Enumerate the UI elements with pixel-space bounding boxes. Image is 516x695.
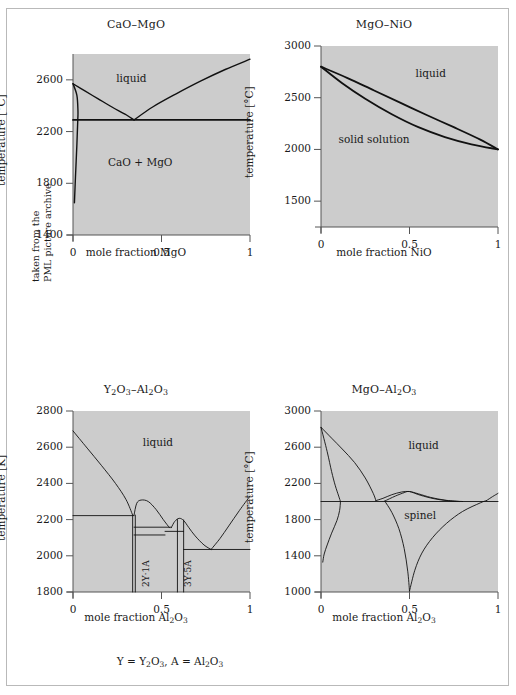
region-label: liquid (416, 67, 446, 79)
y-tick-label: 2600 (17, 73, 63, 85)
panel-mgo-nio: MgO–NiO temperature [°C] mole fraction N… (262, 18, 506, 280)
x-axis-label-mgo-al2o3: mole fraction Al2O3 (262, 611, 506, 625)
archive-note: taken from the PML picture archive (30, 183, 54, 282)
region-label: liquid (116, 72, 146, 84)
figure-root: CaO–MgO temperature [°C] mole fraction M… (0, 0, 516, 695)
y-tick-label: 2200 (17, 125, 63, 137)
region-label: solid solution (339, 133, 410, 145)
panel-y2o3-al2o3: Y2O3–Al2O3 temperature [K] mole fraction… (14, 383, 258, 645)
archive-note-line1: taken from the (30, 183, 42, 282)
y-axis-label-mgo-al2o3: temperature [°C] (243, 451, 255, 543)
x-tick-label: 0 (53, 246, 93, 258)
y-tick-label: 3000 (265, 39, 311, 51)
x-tick-label: 1 (478, 603, 516, 615)
region-label: liquid (143, 436, 173, 448)
y-tick-label: 2000 (17, 549, 63, 561)
y-tick-label: 1000 (265, 585, 311, 597)
x-tick-label: 0.5 (142, 246, 182, 258)
figure-caption: Y = Y2O3, A = Al2O3 (0, 655, 340, 669)
y-tick-label: 1800 (265, 513, 311, 525)
archive-note-line2: PML picture archive (42, 183, 54, 282)
x-tick-label: 0.5 (142, 603, 182, 615)
panel-title-mgo-al2o3: MgO–Al2O3 (262, 383, 506, 397)
x-tick-label: 0 (53, 603, 93, 615)
y-tick-label: 2600 (265, 440, 311, 452)
plot-background (73, 54, 250, 235)
y-tick-label: 2800 (17, 404, 63, 416)
panel-mgo-al2o3: MgO–Al2O3 temperature [°C] mole fraction… (262, 383, 506, 645)
region-label: CaO + MgO (108, 156, 172, 168)
y-tick-label: 2400 (17, 476, 63, 488)
panel-title-cao-mgo: CaO–MgO (14, 18, 258, 31)
x-tick-label: 0.5 (390, 238, 430, 250)
y-tick-label: 3000 (265, 404, 311, 416)
y-tick-label: 1800 (17, 585, 63, 597)
y-axis-label-cao-mgo: temperature [°C] (0, 94, 7, 186)
x-axis-label-y2o3-al2o3: mole fraction Al2O3 (14, 611, 258, 625)
y-tick-label: 1500 (265, 194, 311, 206)
y-tick-label: 2600 (17, 440, 63, 452)
panel-title-y2o3-al2o3: Y2O3–Al2O3 (14, 383, 258, 397)
y-tick-label: 2500 (265, 91, 311, 103)
y-axis-label-mgo-nio: temperature [°C] (243, 86, 255, 178)
y-tick-label: 2200 (265, 476, 311, 488)
x-axis-label-mgo-nio: mole fraction NiO (262, 246, 506, 258)
panel-title-mgo-nio: MgO–NiO (262, 18, 506, 31)
y-axis-label-y2o3-al2o3: temperature [K] (0, 454, 7, 540)
y-tick-label: 2200 (17, 513, 63, 525)
region-label: liquid (409, 439, 439, 451)
x-tick-label: 0 (301, 603, 341, 615)
y-tick-label: 2000 (265, 142, 311, 154)
x-tick-label: 1 (478, 238, 516, 250)
y-tick-label: 1400 (265, 549, 311, 561)
region-label: 2Y·1A (141, 560, 151, 587)
x-tick-label: 0 (301, 238, 341, 250)
x-tick-label: 0.5 (390, 603, 430, 615)
region-label: 3Y·5A (183, 560, 193, 587)
region-label: spinel (404, 509, 436, 521)
